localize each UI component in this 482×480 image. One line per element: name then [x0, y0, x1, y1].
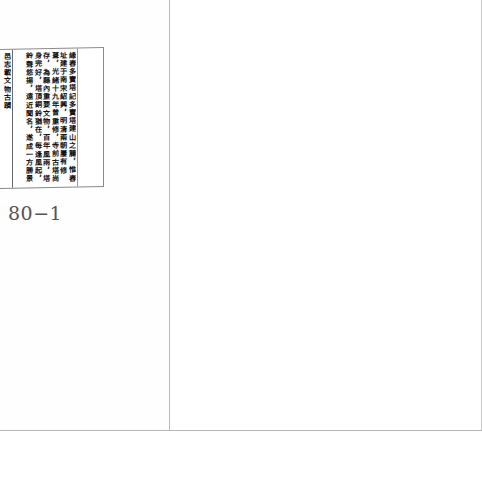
margin-divider: [77, 49, 78, 187]
column-divider: [12, 50, 13, 188]
continuation-column-text: 邑志載文物古蹟: [0, 53, 11, 185]
book-spread: 邑志載文物古蹟 緣舂多寶塔記多寶塔建山之麓，惟舂址建于南宋紹興，明清兩朝屢有修葺…: [0, 0, 482, 431]
left-page: 邑志載文物古蹟 緣舂多寶塔記多寶塔建山之麓，惟舂址建于南宋紹興，明清兩朝屢有修葺…: [0, 0, 169, 431]
page-number: 80−1: [8, 202, 62, 224]
right-page: [170, 0, 481, 431]
vertical-text-columns: 緣舂多寶塔記多寶塔建山之麓，惟舂址建于南宋紹興，明清兩朝屢有修葺，光緒十九年曾重…: [14, 52, 76, 185]
vertical-text-box: 邑志載文物古蹟 緣舂多寶塔記多寶塔建山之麓，惟舂址建于南宋紹興，明清兩朝屢有修葺…: [0, 47, 104, 189]
bottom-page-edge: [0, 430, 482, 431]
